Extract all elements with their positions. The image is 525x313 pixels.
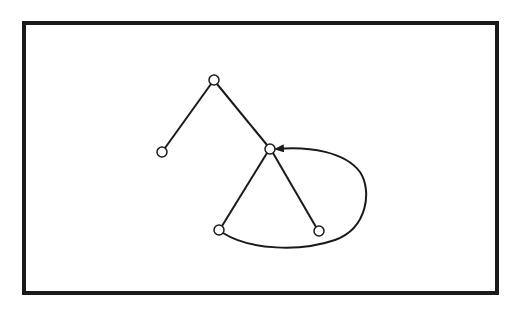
edge-n3-n4 [222, 153, 267, 226]
node-n5 [314, 226, 324, 236]
edges [165, 84, 366, 248]
tree-diagram [0, 0, 525, 313]
edge-n1-n2 [165, 84, 211, 148]
back-edge-n4-to-n3 [223, 148, 366, 247]
node-n2 [157, 147, 167, 157]
diagram-frame [24, 23, 497, 293]
edge-n3-n5 [273, 153, 316, 227]
node-n4 [214, 225, 224, 235]
nodes [157, 75, 324, 236]
edge-n1-n3 [217, 84, 267, 145]
node-n1 [209, 75, 219, 85]
node-n3 [265, 144, 275, 154]
